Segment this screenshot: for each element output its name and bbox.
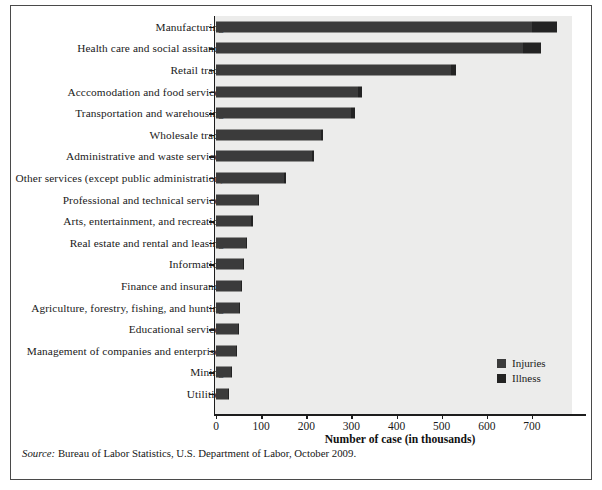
bar-row: Real estate and rental and leasing: [0, 232, 602, 254]
figure-container: ManufacturingHealth care and social assi…: [0, 0, 602, 490]
bar-segment-injuries: [216, 280, 241, 291]
x-axis-tick: [442, 414, 443, 419]
bar-segment-illness: [243, 259, 244, 270]
bar-segment-injuries: [216, 237, 246, 248]
x-axis-tick-label: 100: [253, 420, 270, 432]
bar-segment-injuries: [216, 345, 236, 356]
bar-row: Other services (except public administra…: [0, 167, 602, 189]
category-label: Management of companies and enterprises: [27, 345, 224, 357]
legend: InjuriesIllness: [497, 357, 546, 387]
bar-segment-illness: [523, 43, 541, 54]
bar-segment-injuries: [216, 216, 251, 227]
bar-segment-injuries: [216, 108, 351, 119]
stacked-bar[interactable]: [216, 324, 239, 335]
bar-segment-illness: [258, 194, 260, 205]
bar-segment-injuries: [216, 367, 231, 378]
bar-segment-injuries: [216, 194, 258, 205]
x-axis-tick: [261, 414, 262, 419]
category-label: Wholesale trade: [149, 129, 224, 141]
legend-swatch-icon: [497, 359, 506, 368]
category-label: Educational services: [129, 323, 224, 335]
x-axis-tick-label: 400: [388, 420, 405, 432]
bar-segment-illness: [451, 64, 456, 75]
x-axis-title: Number of case (in thousands): [214, 433, 586, 446]
x-axis-tick-label: 500: [433, 420, 450, 432]
category-label: Transportation and warehousing: [75, 107, 224, 119]
stacked-bar[interactable]: [216, 259, 244, 270]
bar-row: Transportation and warehousing: [0, 102, 602, 124]
stacked-bar[interactable]: [216, 302, 240, 313]
stacked-bar[interactable]: [216, 21, 557, 32]
bar-segment-illness: [532, 21, 557, 32]
source-label: Source:: [22, 447, 55, 459]
bar-row: Professional and technical services: [0, 189, 602, 211]
category-label: Other services (except public administra…: [16, 172, 224, 184]
bar-segment-illness: [241, 280, 242, 291]
category-label: Real estate and rental and leasing: [70, 237, 224, 249]
x-axis-line: [214, 414, 586, 416]
bar-segment-injuries: [216, 388, 228, 399]
stacked-bar[interactable]: [216, 172, 286, 183]
stacked-bar[interactable]: [216, 194, 259, 205]
bar-row: Information: [0, 254, 602, 276]
bar-row: Manufacturing: [0, 16, 602, 38]
source-note: Source: Bureau of Labor Statistics, U.S.…: [22, 447, 356, 459]
bar-segment-illness: [351, 108, 355, 119]
category-label: Health care and social assitance: [77, 42, 224, 54]
legend-item[interactable]: Injuries: [497, 357, 546, 369]
x-axis-tick: [487, 414, 488, 419]
bar-segment-illness: [231, 367, 232, 378]
stacked-bar[interactable]: [216, 108, 355, 119]
bar-segment-injuries: [216, 172, 284, 183]
stacked-bar[interactable]: [216, 64, 456, 75]
stacked-bar[interactable]: [216, 129, 323, 140]
stacked-bar[interactable]: [216, 367, 232, 378]
bar-segment-injuries: [216, 43, 523, 54]
bar-segment-illness: [228, 388, 229, 399]
category-label: Agriculture, forestry, fishing, and hunt…: [31, 302, 224, 314]
category-label: Professional and technical services: [63, 194, 224, 206]
x-axis-tick-label: 0: [213, 420, 219, 432]
x-axis-tick-label: 600: [478, 420, 495, 432]
stacked-bar[interactable]: [216, 151, 314, 162]
legend-item[interactable]: Illness: [497, 372, 546, 384]
x-axis-tick-label: 300: [343, 420, 360, 432]
bar-segment-illness: [251, 216, 252, 227]
bar-segment-injuries: [216, 302, 239, 313]
bar-segment-injuries: [216, 64, 451, 75]
bar-row: Agriculture, forestry, fishing, and hunt…: [0, 297, 602, 319]
stacked-bar[interactable]: [216, 345, 237, 356]
bar-row: Arts, entertainment, and recreation: [0, 210, 602, 232]
bar-segment-illness: [284, 172, 286, 183]
stacked-bar[interactable]: [216, 237, 247, 248]
x-axis-tick: [397, 414, 398, 419]
bar-segment-illness: [239, 302, 240, 313]
category-label: Manufacturing: [156, 21, 224, 33]
stacked-bar[interactable]: [216, 86, 362, 97]
category-label: Finance and insurance: [121, 280, 224, 292]
bar-segment-injuries: [216, 259, 243, 270]
stacked-bar[interactable]: [216, 216, 253, 227]
stacked-bar[interactable]: [216, 388, 229, 399]
bar-row: Educational services: [0, 318, 602, 340]
bar-segment-illness: [321, 129, 324, 140]
category-label: Acccomodation and food services: [68, 86, 225, 98]
source-text: Bureau of Labor Statistics, U.S. Departm…: [55, 447, 356, 459]
bar-segment-illness: [312, 151, 314, 162]
category-label: Administrative and waste services: [66, 150, 224, 162]
bar-segment-illness: [238, 324, 239, 335]
stacked-bar[interactable]: [216, 280, 242, 291]
bar-segment-injuries: [216, 151, 312, 162]
x-axis-tick: [306, 414, 307, 419]
bar-segment-injuries: [216, 129, 321, 140]
x-axis-tick: [532, 414, 533, 419]
legend-label: Injuries: [512, 357, 546, 369]
x-axis-tick-label: 700: [523, 420, 540, 432]
bar-segment-illness: [358, 86, 362, 97]
x-axis-tick-label: 200: [298, 420, 315, 432]
bar-segment-illness: [246, 237, 247, 248]
stacked-bar[interactable]: [216, 43, 541, 54]
bar-row: Finance and insurance: [0, 275, 602, 297]
bar-segment-injuries: [216, 21, 532, 32]
bar-segment-injuries: [216, 324, 238, 335]
